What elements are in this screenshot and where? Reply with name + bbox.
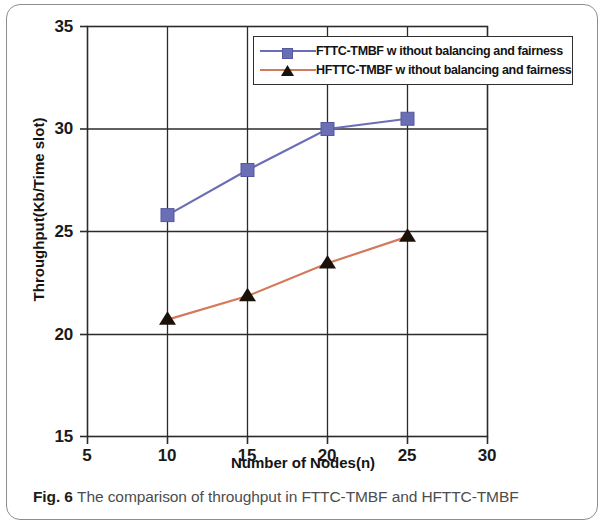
- data-point-marker: [241, 164, 254, 177]
- chart-plot-region: 35 30 25 20 15 5 10 15 20 25 30 Throughp…: [7, 5, 599, 479]
- x-axis-title: Number of Nodes(n): [7, 454, 599, 471]
- y-tick-label-20: 20: [33, 325, 73, 345]
- y-tick-label-15: 15: [33, 427, 73, 447]
- figure-card: 35 30 25 20 15 5 10 15 20 25 30 Throughp…: [6, 4, 598, 520]
- horizontal-gridlines: [88, 129, 488, 335]
- legend-label-hfttc-tmbf: HFTTC-TMBF w ithout balancing and fairne…: [316, 63, 571, 77]
- triangle-marker-icon: [280, 63, 295, 81]
- y-tick-label-35: 35: [33, 17, 73, 37]
- x-axis-tick-marks: [88, 437, 488, 445]
- data-series-layer: [159, 112, 416, 325]
- figure-caption-label: Fig. 6: [33, 488, 73, 505]
- legend-swatch-fttc-tmbf: [260, 42, 316, 59]
- figure-caption: Fig. 6 The comparison of throughput in F…: [33, 488, 583, 506]
- y-axis-title: Throughput(Kb/Time slot): [30, 95, 47, 325]
- legend-entry-fttc-tmbf: FTTC-TMBF w ithout balancing and fairnes…: [260, 41, 566, 60]
- legend-swatch-hfttc-tmbf: [260, 61, 316, 78]
- y-axis-tick-marks: [80, 27, 88, 437]
- data-point-marker: [401, 112, 414, 125]
- data-point-marker: [399, 228, 416, 242]
- series-line-0: [168, 119, 408, 215]
- figure-caption-text: The comparison of throughput in FTTC-TMB…: [77, 488, 518, 505]
- data-point-marker: [161, 209, 174, 222]
- chart-legend: FTTC-TMBF w ithout balancing and fairnes…: [253, 36, 573, 85]
- legend-label-fttc-tmbf: FTTC-TMBF w ithout balancing and fairnes…: [316, 44, 563, 58]
- legend-entry-hfttc-tmbf: HFTTC-TMBF w ithout balancing and fairne…: [260, 60, 566, 79]
- series-line-1: [168, 237, 408, 320]
- data-point-marker: [321, 123, 334, 136]
